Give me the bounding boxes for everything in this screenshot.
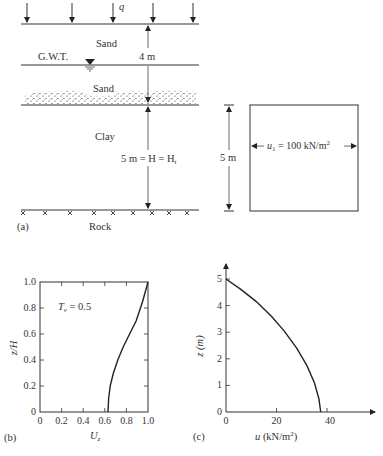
pressure-rectangle <box>250 105 358 211</box>
svg-text:0.2: 0.2 <box>24 380 37 391</box>
chart-c-x-tick-labels: 0 20 40 <box>224 415 336 426</box>
svg-text:0.4: 0.4 <box>77 415 90 426</box>
svg-text:5: 5 <box>217 273 222 284</box>
chart-degree-of-consolidation: 0 0.2 0.4 0.6 0.8 1.0 0 0.2 0.4 0.6 0.8 … <box>4 276 154 444</box>
soil-profile-diagram: q Sand 4 m G.W.T. Sand Clay 5 m = H = Ht <box>17 1 199 233</box>
svg-text:0: 0 <box>217 406 222 417</box>
layer-label-rock: Rock <box>89 221 112 232</box>
chart-b-y-tick-labels: 0 0.2 0.4 0.6 0.8 1.0 <box>24 276 37 417</box>
surcharge-load-arrows <box>27 3 193 22</box>
svg-text:3: 3 <box>217 326 222 337</box>
svg-text:40: 40 <box>325 415 335 426</box>
svg-text:4: 4 <box>217 300 222 311</box>
svg-text:2: 2 <box>217 353 222 364</box>
svg-text:0.6: 0.6 <box>99 415 112 426</box>
svg-text:0: 0 <box>31 406 36 417</box>
load-label-q: q <box>119 1 124 12</box>
rock-hatch-marks <box>21 211 189 215</box>
svg-text:0.4: 0.4 <box>24 354 37 365</box>
svg-text:1: 1 <box>217 379 222 390</box>
dimension-label-clay: 5 m = H = Ht <box>121 153 177 166</box>
figure-canvas: q Sand 4 m G.W.T. Sand Clay 5 m = H = Ht <box>0 0 383 456</box>
chart-b-curve-tv-0.5 <box>108 282 148 412</box>
svg-text:20: 20 <box>272 415 282 426</box>
chart-c-x-axis-label: u (kN/m2) <box>255 430 298 443</box>
chart-c-curve-pore-pressure <box>226 279 321 412</box>
dimension-label-4m: 4 m <box>139 51 155 62</box>
panel-c-caption: (c) <box>193 431 205 443</box>
chart-c-x-ticks <box>277 408 328 412</box>
chart-b-y-ticks <box>40 308 148 386</box>
layer-label-sand-middle: Sand <box>93 83 115 94</box>
chart-b-frame <box>40 282 148 412</box>
svg-text:0.8: 0.8 <box>24 302 37 313</box>
svg-text:0: 0 <box>38 415 43 426</box>
svg-text:0.6: 0.6 <box>24 328 37 339</box>
svg-text:1.0: 1.0 <box>142 415 155 426</box>
chart-c-y-tick-labels: 0 1 2 3 4 5 <box>217 273 222 417</box>
layer-label-sand-top: Sand <box>96 38 118 49</box>
chart-b-x-axis-label: Uz <box>90 430 101 443</box>
layer-label-clay: Clay <box>95 131 116 142</box>
gwt-label: G.W.T. <box>38 51 68 62</box>
chart-b-x-tick-labels: 0 0.2 0.4 0.6 0.8 1.0 <box>38 415 155 426</box>
chart-b-annotation-tv: Tv = 0.5 <box>58 301 91 314</box>
chart-excess-pore-pressure: 0 1 2 3 4 5 0 20 40 z (m) u (kN/m2) (c) <box>193 264 375 443</box>
pressure-label: u1 = 100 kN/m2 <box>267 139 330 153</box>
svg-text:0.2: 0.2 <box>55 415 68 426</box>
panel-a-caption: (a) <box>17 221 29 233</box>
chart-c-y-ticks <box>226 279 230 385</box>
initial-pore-pressure-box: 5 m u1 = 100 kN/m2 <box>220 105 358 211</box>
svg-text:0.8: 0.8 <box>120 415 133 426</box>
box-height-label: 5 m <box>220 152 236 163</box>
svg-text:0: 0 <box>224 415 229 426</box>
chart-c-y-axis-label: z (m) <box>194 335 206 358</box>
panel-b-caption: (b) <box>4 432 17 444</box>
svg-text:1.0: 1.0 <box>24 276 37 287</box>
chart-b-y-axis-label: z/H <box>8 339 19 356</box>
